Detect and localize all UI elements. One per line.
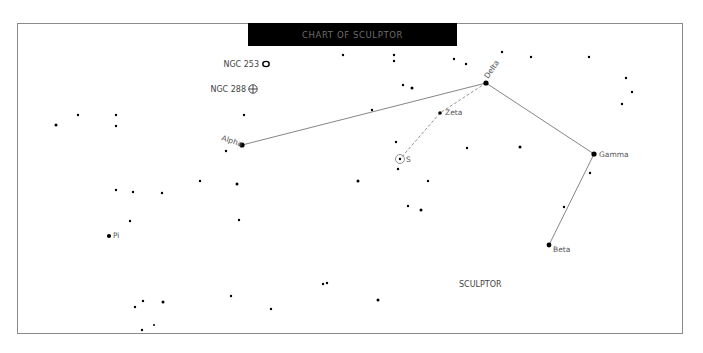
dashed-line (400, 113, 440, 159)
dso-label: NGC 253 (223, 60, 259, 69)
star (142, 300, 144, 302)
star (326, 282, 328, 284)
star (588, 56, 590, 58)
star (225, 150, 227, 152)
named-stars: AlphaDeltaZetaGammaBetaPiS (107, 59, 629, 254)
star (420, 209, 423, 212)
star (129, 220, 131, 222)
star (371, 109, 373, 111)
star (427, 180, 429, 182)
constellation-dashed-lines (400, 83, 486, 159)
star (411, 87, 414, 90)
star (236, 183, 239, 186)
star (466, 147, 468, 149)
background-stars (55, 51, 634, 331)
star (199, 180, 201, 182)
star (631, 91, 633, 93)
star (563, 206, 565, 208)
star (519, 146, 522, 149)
star-s (399, 158, 401, 160)
star (395, 141, 397, 143)
star-zeta (438, 111, 442, 115)
dso-label: NGC 288 (210, 85, 246, 94)
galaxy-icon (263, 61, 269, 66)
star-label-delta: Delta (482, 59, 501, 81)
star (501, 51, 503, 53)
star (141, 329, 143, 331)
constellation-line (549, 154, 594, 245)
star (342, 54, 344, 56)
star-label-alpha: Alpha (220, 133, 243, 148)
star (132, 191, 134, 193)
star-pi (107, 234, 111, 238)
constellation-label: SCULPTOR (459, 280, 502, 289)
star-label-zeta: Zeta (445, 108, 462, 117)
star-delta (483, 80, 488, 85)
star (322, 283, 324, 285)
star (402, 84, 404, 86)
star (153, 324, 155, 326)
star (625, 77, 627, 79)
star (162, 301, 165, 304)
star (397, 168, 399, 170)
star (161, 192, 163, 194)
star (530, 56, 532, 58)
star-label-beta: Beta (553, 245, 570, 254)
star-beta (547, 243, 552, 248)
star (621, 103, 623, 105)
star-gamma (591, 151, 596, 156)
star (270, 308, 272, 310)
star-chart: AlphaDeltaZetaGammaBetaPiS NGC 253NGC 28… (0, 0, 703, 353)
star (243, 114, 245, 116)
star (230, 295, 232, 297)
deep-sky-objects: NGC 253NGC 288 (210, 60, 269, 94)
constellation-line (486, 83, 594, 154)
star (357, 180, 360, 183)
constellation-lines (242, 83, 594, 245)
star-label-gamma: Gamma (599, 150, 629, 159)
star (115, 114, 117, 116)
star (115, 189, 117, 191)
star-label-pi: Pi (113, 231, 119, 240)
star (393, 54, 395, 56)
star (115, 125, 117, 127)
star (465, 63, 467, 65)
star (393, 60, 395, 62)
star (407, 205, 409, 207)
star (77, 114, 79, 116)
star (238, 219, 240, 221)
star (589, 172, 591, 174)
star (453, 58, 455, 60)
star (134, 306, 136, 308)
star-label-s: S (406, 155, 411, 164)
star (377, 299, 380, 302)
star (55, 124, 58, 127)
